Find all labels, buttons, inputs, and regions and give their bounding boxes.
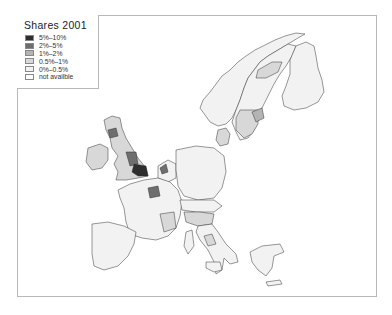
legend-swatch [25, 74, 34, 80]
legend-item: 2%–5% [25, 42, 73, 50]
region-sardinia [184, 230, 194, 254]
legend-item: 0.5%–1% [25, 57, 73, 65]
legend-title: Shares 2001 [24, 19, 87, 31]
region-ireland [86, 144, 108, 170]
region-iberia [92, 222, 136, 270]
region-ile-de-france [148, 186, 160, 198]
legend-swatch [25, 66, 34, 72]
region-scotland-central [108, 128, 118, 138]
legend-label: 1%–2% [39, 50, 62, 57]
region-greece [250, 244, 284, 276]
region-sicily [206, 262, 222, 272]
region-alps [180, 200, 222, 212]
legend-swatch [25, 58, 34, 64]
legend-items: 5%–10% 2%–5% 1%–2% 0.5%–1% 0%–0.5% not a… [25, 34, 73, 81]
map-legend: Shares 2001 5%–10% 2%–5% 1%–2% 0.5%–1% 0… [17, 15, 99, 89]
legend-swatch [25, 50, 34, 56]
legend-item: 5%–10% [25, 34, 73, 42]
legend-item: 1%–2% [25, 50, 73, 58]
legend-label: 0%–0.5% [39, 66, 68, 73]
region-crete [266, 280, 282, 286]
region-denmark [216, 128, 230, 146]
region-germany [176, 146, 226, 200]
legend-label: not availble [39, 73, 73, 80]
legend-item: 0%–0.5% [25, 65, 73, 73]
legend-swatch [25, 35, 34, 41]
legend-label: 5%–10% [39, 34, 66, 41]
legend-swatch [25, 43, 34, 49]
legend-label: 2%–5% [39, 42, 62, 49]
legend-label: 0.5%–1% [39, 58, 68, 65]
legend-item: not availble [25, 73, 73, 81]
region-northern-italy [184, 212, 214, 226]
